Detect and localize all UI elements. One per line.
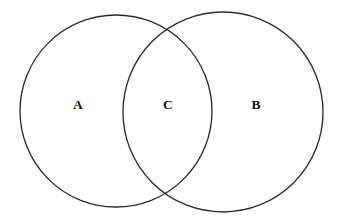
circle-set-a bbox=[20, 15, 212, 207]
venn-circles-group bbox=[0, 0, 346, 223]
venn-diagram: A C B bbox=[0, 0, 346, 223]
region-label-c: C bbox=[163, 98, 173, 112]
region-label-a: A bbox=[73, 98, 83, 112]
region-label-b: B bbox=[251, 98, 260, 112]
circle-set-b bbox=[123, 12, 323, 212]
